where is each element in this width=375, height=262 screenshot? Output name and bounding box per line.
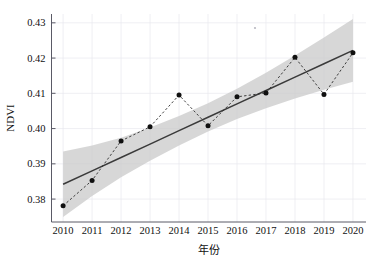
data-point (321, 92, 326, 97)
data-point (263, 90, 268, 95)
x-tick-label: 2010 (53, 225, 74, 236)
x-tick-label: 2016 (227, 225, 248, 236)
x-tick-label: 2019 (313, 225, 334, 236)
y-tick-labels-group: 0.380.390.400.410.420.43 (27, 17, 45, 204)
x-tick-label: 2011 (82, 225, 103, 236)
data-point (119, 138, 124, 143)
y-tick-label: 0.41 (27, 88, 45, 99)
x-tick-label: 2020 (342, 225, 363, 236)
y-tick-label: 0.42 (27, 53, 45, 64)
x-tick-label: 2015 (198, 225, 219, 236)
x-tick-label: 2012 (111, 225, 132, 236)
y-axis-title: NDVI (4, 104, 16, 132)
ndvi-trend-chart: 2010201120122013201420152016201720182019… (0, 0, 375, 262)
y-tick-label: 0.43 (27, 17, 45, 28)
data-point (235, 94, 240, 99)
data-point (177, 93, 182, 98)
y-tick-label: 0.39 (27, 158, 45, 169)
data-point (206, 123, 211, 128)
y-tick-label: 0.40 (27, 123, 45, 134)
data-point (61, 203, 66, 208)
data-point (350, 50, 355, 55)
x-axis-title: 年份 (198, 243, 220, 256)
x-tick-label: 2018 (284, 225, 305, 236)
image-speck (254, 27, 256, 29)
chart-canvas: 2010201120122013201420152016201720182019… (0, 0, 375, 262)
data-point (148, 124, 153, 129)
x-tick-label: 2013 (140, 225, 161, 236)
x-tick-label: 2014 (169, 225, 191, 236)
data-point (292, 55, 297, 60)
x-tick-labels-group: 2010201120122013201420152016201720182019… (53, 225, 364, 236)
y-tick-label: 0.38 (27, 194, 45, 205)
data-point (90, 178, 95, 183)
x-tick-label: 2017 (255, 225, 276, 236)
